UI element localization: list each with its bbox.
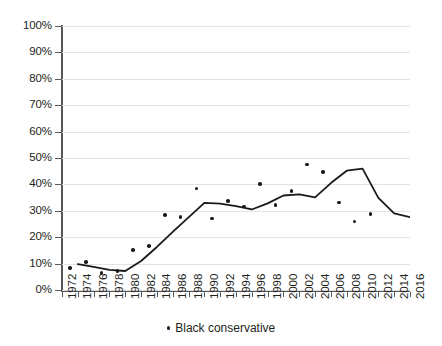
x-tick-label: 2012 bbox=[383, 274, 395, 299]
x-tick-mark bbox=[220, 292, 221, 297]
x-tick-mark bbox=[283, 292, 284, 297]
y-tick-mark bbox=[55, 264, 61, 265]
data-point-marker bbox=[116, 269, 120, 273]
y-tick-label: 60% bbox=[4, 126, 52, 138]
x-tick-mark bbox=[157, 292, 158, 297]
y-tick-label: 10% bbox=[4, 258, 52, 270]
y-tick-mark bbox=[55, 26, 61, 27]
x-tick-mark bbox=[268, 292, 269, 297]
x-tick-label: 2004 bbox=[320, 274, 332, 299]
x-tick-mark bbox=[315, 292, 316, 297]
data-point-marker bbox=[274, 203, 278, 207]
x-tick-label: 1982 bbox=[146, 274, 158, 299]
y-tick-label: 30% bbox=[4, 205, 52, 217]
y-tick-mark bbox=[55, 105, 61, 106]
y-tick-label: 20% bbox=[4, 231, 52, 243]
y-tick-mark bbox=[55, 158, 61, 159]
y-tick-mark bbox=[55, 184, 61, 185]
y-tick-mark bbox=[55, 237, 61, 238]
y-tick-label: 90% bbox=[4, 46, 52, 58]
x-tick-label: 2010 bbox=[367, 274, 379, 299]
x-tick-mark bbox=[299, 292, 300, 297]
data-point-marker bbox=[68, 266, 72, 270]
x-tick-label: 1990 bbox=[209, 274, 221, 299]
x-tick-mark bbox=[94, 292, 95, 297]
data-point-marker bbox=[131, 248, 135, 252]
x-tick-label: 1998 bbox=[272, 274, 284, 299]
x-tick-label: 2008 bbox=[351, 274, 363, 299]
x-tick-mark bbox=[204, 292, 205, 297]
plot-area bbox=[62, 26, 410, 290]
x-tick-mark bbox=[363, 292, 364, 297]
x-tick-label: 2016 bbox=[415, 274, 427, 299]
x-tick-label: 1992 bbox=[225, 274, 237, 299]
x-tick-label: 1988 bbox=[193, 274, 205, 299]
x-tick-mark bbox=[394, 292, 395, 297]
line-chart: 0%10%20%30%40%50%60%70%80%90%100% 197219… bbox=[0, 0, 442, 346]
y-tick-label: 50% bbox=[4, 152, 52, 164]
y-tick-label: 80% bbox=[4, 73, 52, 85]
y-tick-mark bbox=[55, 52, 61, 53]
series-layer bbox=[62, 26, 410, 290]
x-tick-mark bbox=[173, 292, 174, 297]
y-tick-label: 70% bbox=[4, 99, 52, 111]
data-point-marker bbox=[337, 201, 341, 205]
x-tick-label: 1972 bbox=[67, 274, 79, 299]
x-tick-mark bbox=[378, 292, 379, 297]
y-tick-label: 40% bbox=[4, 178, 52, 190]
x-tick-label: 1978 bbox=[114, 274, 126, 299]
y-tick-mark bbox=[55, 211, 61, 212]
x-tick-mark bbox=[189, 292, 190, 297]
y-tick-label: 100% bbox=[4, 20, 52, 32]
y-tick-mark bbox=[55, 132, 61, 133]
x-tick-mark bbox=[252, 292, 253, 297]
x-tick-mark bbox=[109, 292, 110, 297]
y-tick-label: 0% bbox=[4, 284, 52, 296]
x-tick-mark bbox=[236, 292, 237, 297]
legend-label: Black conservative bbox=[175, 322, 275, 334]
x-tick-label: 2002 bbox=[304, 274, 316, 299]
x-tick-label: 1996 bbox=[256, 274, 268, 299]
data-point-marker bbox=[258, 182, 262, 186]
data-point-marker bbox=[226, 199, 230, 203]
y-tick-mark bbox=[55, 290, 61, 291]
y-tick-mark bbox=[55, 79, 61, 80]
x-tick-label: 1974 bbox=[82, 274, 94, 299]
data-point-marker bbox=[242, 205, 246, 209]
x-tick-mark bbox=[410, 292, 411, 297]
x-tick-label: 2006 bbox=[335, 274, 347, 299]
data-point-marker bbox=[147, 244, 151, 248]
x-tick-label: 1994 bbox=[241, 274, 253, 299]
data-point-marker bbox=[321, 170, 325, 174]
data-point-marker bbox=[163, 213, 167, 217]
x-tick-label: 1984 bbox=[161, 274, 173, 299]
legend-marker-dot-icon bbox=[167, 326, 171, 330]
x-tick-mark bbox=[62, 292, 63, 297]
x-tick-label: 2000 bbox=[288, 274, 300, 299]
data-point-marker bbox=[84, 260, 88, 264]
y-axis-labels: 0%10%20%30%40%50%60%70%80%90%100% bbox=[0, 0, 52, 346]
trend-line bbox=[78, 169, 410, 271]
x-tick-mark bbox=[141, 292, 142, 297]
x-tick-label: 1976 bbox=[98, 274, 110, 299]
x-tick-label: 1986 bbox=[177, 274, 189, 299]
x-tick-label: 1980 bbox=[130, 274, 142, 299]
x-tick-mark bbox=[78, 292, 79, 297]
x-tick-mark bbox=[125, 292, 126, 297]
chart-legend: Black conservative bbox=[0, 322, 442, 334]
x-tick-mark bbox=[347, 292, 348, 297]
data-point-marker bbox=[290, 189, 294, 193]
x-tick-mark bbox=[331, 292, 332, 297]
x-tick-label: 2014 bbox=[399, 274, 411, 299]
